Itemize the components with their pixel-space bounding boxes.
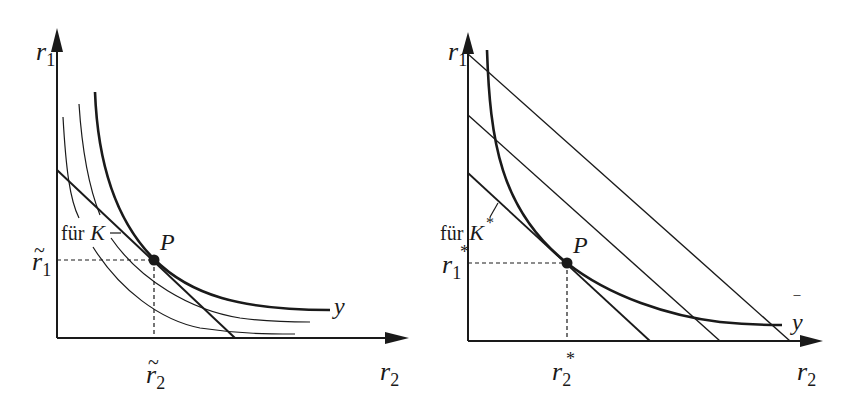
left-point-p [149, 255, 160, 266]
isoquant-diagram: r1 r2 P ~ r1 ~ r2 fürK y r1 r2 P [0, 0, 857, 403]
right-x-axis-arrow-icon [800, 335, 823, 347]
right-point-label: P [572, 232, 588, 258]
left-line-label: fürK [61, 220, 106, 245]
right-tick-r2-mark: * [566, 349, 575, 369]
left-panel: r1 r2 P ~ r1 ~ r2 fürK y [32, 28, 409, 393]
left-tick-r1-label: r1 [32, 247, 51, 280]
right-curve-label: y [790, 309, 803, 335]
right-x-axis-label: r2 [797, 357, 816, 390]
right-panel: r1 r2 P * r1 * r2 fürK* ‾ y [440, 32, 823, 390]
right-y-axis-label: r1 [448, 37, 467, 70]
left-tick-r2-label: r2 [146, 360, 165, 393]
left-y-axis-arrow-icon [51, 28, 63, 52]
right-isoquant-ybar [487, 50, 782, 325]
left-isoquant-mid [79, 104, 310, 322]
left-isoquant-y [95, 92, 330, 310]
left-y-axis-label: r1 [36, 37, 55, 70]
right-point-p [562, 258, 573, 269]
right-tick-r1-label: r1 [442, 250, 461, 283]
right-tick-r1-mark: * [460, 242, 469, 262]
left-curve-label: y [332, 293, 345, 319]
left-point-label: P [159, 229, 175, 255]
left-x-axis-label: r2 [380, 357, 399, 390]
right-isocost-line-mid [468, 115, 720, 341]
left-x-axis-arrow-icon [385, 332, 409, 344]
left-isocost-line [57, 170, 235, 338]
